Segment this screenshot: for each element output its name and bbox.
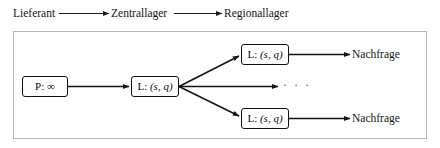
node-central-warehouse-label: L: (s, q)	[137, 81, 172, 92]
node-regional-warehouse-bottom: L: (s, q)	[241, 108, 289, 129]
node-regional-warehouse-top-label: L: (s, q)	[247, 49, 282, 60]
node-supplier: P: ∞	[22, 76, 68, 97]
node-regional-warehouse-bottom-label: L: (s, q)	[247, 113, 282, 124]
header-stage-regionallager: Regionallager	[224, 7, 289, 20]
diagram-canvas: Lieferant Zentrallager Regionallager P: …	[0, 0, 440, 148]
demand-label-bottom: Nachfrage	[352, 112, 400, 125]
header-stage-lieferant: Lieferant	[13, 7, 55, 20]
node-supplier-label: P: ∞	[35, 81, 55, 92]
demand-label-top: Nachfrage	[352, 48, 400, 61]
header-stage-zentrallager: Zentrallager	[111, 7, 167, 20]
ellipsis-indicator: · · ·	[283, 78, 311, 93]
node-central-warehouse: L: (s, q)	[131, 76, 179, 97]
node-regional-warehouse-top: L: (s, q)	[241, 44, 289, 65]
